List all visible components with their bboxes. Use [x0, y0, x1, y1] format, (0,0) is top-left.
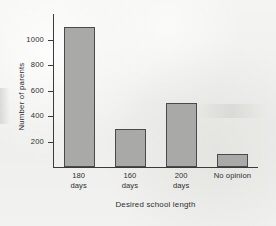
- bar-group: 160days: [106, 14, 154, 167]
- x-tick-label-line1: No opinion: [214, 171, 251, 180]
- x-tick-label-line1: 180: [72, 171, 85, 180]
- x-axis-title: Desired school length: [53, 200, 258, 209]
- bar-group: 200days: [157, 14, 205, 167]
- bar: [166, 103, 197, 167]
- bar-chart-figure: Number of parents 2004006008001000 180da…: [0, 0, 276, 226]
- bar: [64, 27, 95, 167]
- y-tick-label: 200: [16, 138, 44, 146]
- y-tick-label: 1000: [16, 36, 44, 44]
- bar: [115, 129, 146, 167]
- bar-group: No opinion: [208, 14, 256, 167]
- bar: [217, 154, 248, 167]
- y-tick-label: 600: [16, 87, 44, 95]
- y-tick-label: 800: [16, 61, 44, 69]
- plot-area: 180days160days200daysNo opinion: [53, 14, 258, 167]
- x-tick-label-line1: 200: [175, 171, 188, 180]
- y-tick-label: 400: [16, 112, 44, 120]
- x-tick-label-line1: 160: [123, 171, 136, 180]
- bar-group: 180days: [55, 14, 103, 167]
- x-tick-label: No opinion: [193, 171, 271, 181]
- x-axis-line: [53, 167, 258, 168]
- x-tick-label-line2: days: [150, 181, 212, 191]
